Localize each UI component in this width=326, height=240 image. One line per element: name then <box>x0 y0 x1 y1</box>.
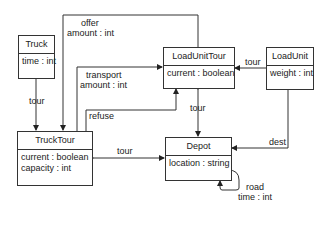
label-offer-attribute: amount : int <box>67 28 114 39</box>
label-loadunit-tour: tour <box>245 57 261 68</box>
class-name: TruckTour <box>18 132 92 150</box>
class-loadunit[interactable]: LoadUnit weight : int <box>266 47 314 90</box>
label-refuse: refuse <box>89 111 114 122</box>
class-attribute: current : boolean <box>21 152 89 163</box>
class-attribute: capacity : int <box>21 163 89 174</box>
label-road-attribute: time : int <box>238 192 272 203</box>
label-depot-trucktour: tour <box>117 146 133 157</box>
label-truck-tour: tour <box>29 96 45 107</box>
class-attribute: weight : int <box>270 68 310 79</box>
class-attribute: time : int <box>22 56 51 67</box>
label-dest: dest <box>269 137 286 148</box>
class-name: LoadUnitTour <box>164 48 234 66</box>
class-name: Depot <box>166 138 231 156</box>
label-lut-depot-tour: tour <box>190 103 206 114</box>
class-truck[interactable]: Truck time : int <box>18 35 55 79</box>
class-name: LoadUnit <box>267 48 313 66</box>
label-transport-attribute: amount : int <box>80 80 127 91</box>
class-attribute: location : string <box>169 158 228 169</box>
class-name: Truck <box>19 36 54 54</box>
class-loadunittour[interactable]: LoadUnitTour current : boolean <box>163 47 235 89</box>
class-depot[interactable]: Depot location : string <box>165 137 232 181</box>
edge-refuse <box>86 89 176 131</box>
class-trucktour[interactable]: TruckTour current : boolean capacity : i… <box>17 131 93 186</box>
class-attribute: current : boolean <box>167 68 231 79</box>
